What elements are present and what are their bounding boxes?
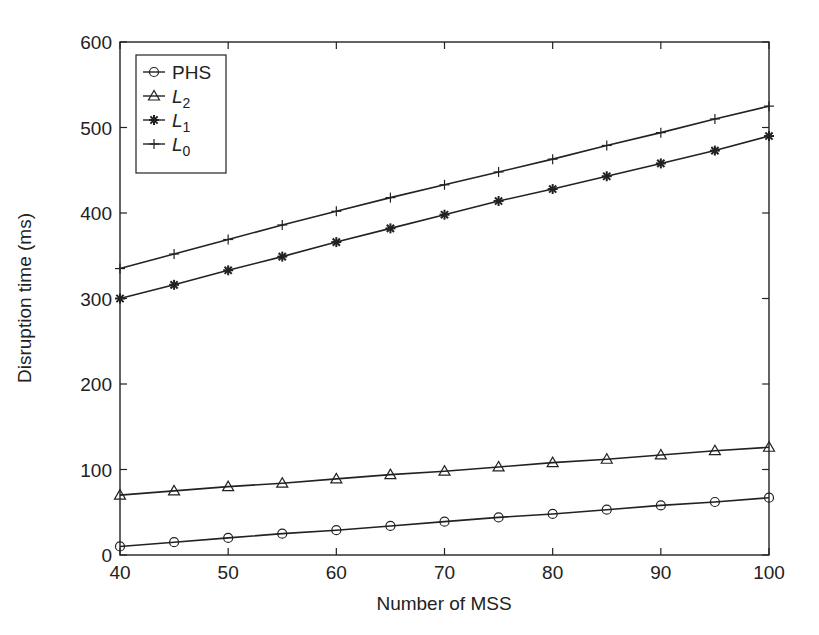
x-tick-label: 100	[753, 562, 785, 583]
plot-area: 4050607080901000100200300400500600PHSL2L…	[80, 32, 785, 583]
plus-marker-icon	[440, 180, 450, 190]
star-marker-icon	[710, 146, 720, 156]
plus-marker-icon	[764, 101, 774, 111]
legend: PHSL2L1L0	[136, 55, 226, 173]
y-axis-title: Disruption time (ms)	[14, 213, 35, 383]
star-marker-icon	[656, 158, 666, 168]
plus-marker-icon	[331, 206, 341, 216]
plus-marker-icon	[548, 154, 558, 164]
y-tick-label: 400	[80, 203, 112, 224]
x-tick-label: 70	[434, 562, 455, 583]
star-marker-icon	[548, 184, 558, 194]
x-tick-label: 90	[650, 562, 671, 583]
plus-marker-icon	[169, 249, 179, 259]
x-tick-label: 60	[326, 562, 347, 583]
plus-marker-icon	[710, 114, 720, 124]
plus-marker-icon	[656, 128, 666, 138]
y-tick-label: 0	[101, 545, 112, 566]
series-l2	[115, 442, 775, 499]
y-tick-label: 200	[80, 374, 112, 395]
star-marker-icon	[602, 171, 612, 181]
star-marker-icon	[331, 237, 341, 247]
star-marker-icon	[494, 196, 504, 206]
line-chart: 4050607080901000100200300400500600PHSL2L…	[0, 0, 819, 635]
plus-marker-icon	[115, 264, 125, 274]
star-marker-icon	[385, 223, 395, 233]
y-tick-label: 600	[80, 32, 112, 53]
star-marker-icon	[149, 115, 159, 125]
star-marker-icon	[115, 294, 125, 304]
series-line	[120, 447, 769, 495]
x-tick-label: 40	[109, 562, 130, 583]
star-marker-icon	[440, 210, 450, 220]
x-tick-label: 50	[218, 562, 239, 583]
star-marker-icon	[277, 252, 287, 262]
star-marker-icon	[764, 131, 774, 141]
y-tick-label: 500	[80, 118, 112, 139]
series-line	[120, 498, 769, 547]
star-marker-icon	[169, 280, 179, 290]
x-axis-title: Number of MSS	[376, 593, 511, 614]
series-phs	[116, 493, 774, 551]
plus-marker-icon	[602, 140, 612, 150]
y-tick-label: 300	[80, 289, 112, 310]
legend-label: PHS	[172, 62, 211, 83]
plus-marker-icon	[223, 235, 233, 245]
plus-marker-icon	[494, 167, 504, 177]
y-tick-label: 100	[80, 460, 112, 481]
plus-marker-icon	[385, 193, 395, 203]
x-tick-label: 80	[542, 562, 563, 583]
star-marker-icon	[223, 265, 233, 275]
plus-marker-icon	[277, 220, 287, 230]
